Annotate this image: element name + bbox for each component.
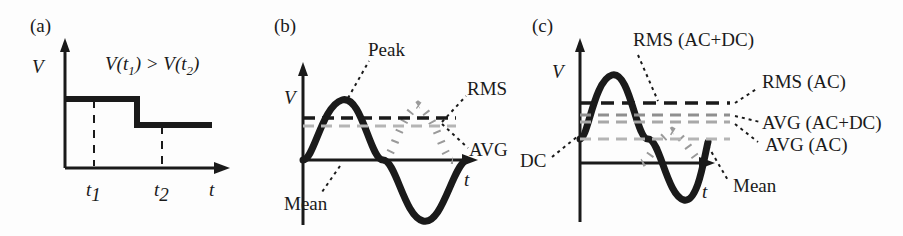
panel-a-tick-t1: t1 — [86, 179, 101, 205]
panel-c: (c) V RMS (A — [530, 0, 903, 236]
panel-a-tick-t2: t2 — [154, 179, 169, 205]
panel-b-y-axis-arrow — [298, 62, 308, 76]
panel-a-step-waveform — [65, 99, 212, 125]
panel-b-y-axis-label: V — [284, 87, 298, 108]
panel-c-rms-acdc-leader — [638, 55, 658, 101]
panel-b-x-axis-label: t — [464, 169, 470, 190]
panel-c-avg-acdc-leader — [735, 116, 760, 122]
panel-b-mean-leader — [322, 166, 340, 192]
panel-c-canvas: (c) V RMS (A — [530, 0, 903, 236]
panel-c-avg-acdc-label: AVG (AC+DC) — [762, 112, 882, 134]
panel-b-canvas: (b) V Peak RMS AVG — [270, 0, 530, 236]
panel-b-peak-label: Peak — [368, 39, 405, 60]
panel-c-x-axis-label: t — [702, 181, 708, 202]
panel-c-y-axis-arrow — [575, 38, 585, 52]
panel-c-rms-ac-label: RMS (AC) — [762, 71, 846, 93]
panel-c-avg-ac-leader — [735, 124, 758, 142]
panel-b: (b) V Peak RMS AVG — [270, 0, 530, 236]
panel-c-dc-label: DC — [520, 150, 546, 171]
panel-c-dc-leader — [552, 136, 578, 157]
panel-c-y-axis-label: V — [552, 61, 566, 82]
panel-b-avg-leader — [442, 124, 468, 148]
panel-c-rms-acdc-label: RMS (AC+DC) — [633, 29, 754, 51]
panel-a-x-axis-label: t — [209, 179, 215, 200]
panel-a-x-axis-arrow — [214, 162, 230, 174]
panel-c-avg-ac-label: AVG (AC) — [765, 134, 848, 156]
panel-b-avg-label: AVG — [469, 139, 508, 160]
panel-b-mean-label: Mean — [284, 193, 328, 214]
panel-a-y-axis-label: V — [32, 56, 46, 77]
panel-a-equation: V(t1) > V(t2) — [105, 53, 199, 78]
panel-c-sine-wave — [580, 75, 708, 200]
figure-root: (a) V V(t1) > V(t2) t1 t2 t — [0, 0, 903, 236]
panel-a-canvas: (a) V V(t1) > V(t2) t1 t2 t — [0, 0, 270, 236]
panel-c-mean-label: Mean — [733, 175, 777, 196]
panel-c-rms-ac-leader — [735, 88, 758, 103]
panel-a-y-axis-arrow — [60, 38, 70, 52]
panel-a-label: (a) — [30, 15, 51, 37]
panel-a: (a) V V(t1) > V(t2) t1 t2 t — [0, 0, 270, 236]
panel-b-peak-leader — [348, 61, 369, 98]
panel-c-rectified-curve — [642, 131, 702, 163]
panel-b-label: (b) — [274, 15, 296, 37]
panel-b-rms-label: RMS — [467, 78, 507, 99]
panel-b-rectified-curve — [383, 105, 453, 160]
panel-c-label: (c) — [532, 15, 553, 37]
